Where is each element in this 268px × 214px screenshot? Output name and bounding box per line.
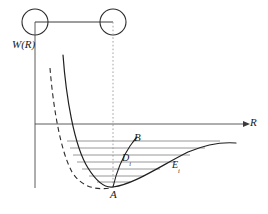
potential-energy-figure: W(R) R A B Di Ei (0, 0, 268, 214)
y-axis-label-text: W(R) (12, 38, 35, 50)
label-minimum-a: A (110, 189, 117, 200)
label-ei-subscript: i (178, 167, 180, 174)
label-vibrational-energy: Ei (172, 160, 180, 172)
x-axis-label: R (250, 117, 257, 128)
figure-canvas (0, 0, 268, 214)
label-a-text: A (110, 188, 117, 200)
potential-curve-dashed (50, 68, 110, 189)
potential-curve-solid (63, 55, 236, 187)
label-branch-b: B (134, 132, 141, 143)
label-dissociation-energy: Di (122, 153, 131, 165)
label-di-subscript: i (129, 160, 131, 167)
label-b-text: B (134, 131, 141, 143)
y-axis-label: W(R) (12, 39, 35, 50)
x-axis-arrowhead (243, 121, 250, 127)
x-axis-label-text: R (250, 116, 257, 128)
